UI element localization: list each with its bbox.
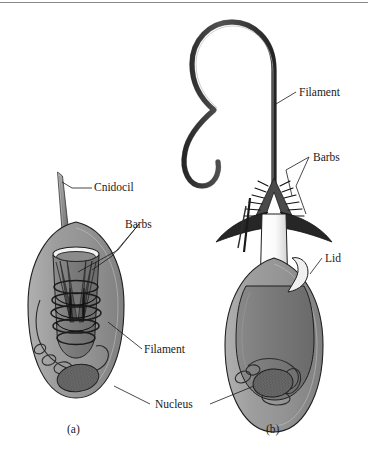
label-filament-right: Filament — [299, 86, 341, 98]
label-barbs-right: Barbs — [313, 151, 340, 163]
caption-b: (b) — [266, 423, 280, 436]
label-barbs-left: Barbs — [125, 218, 152, 230]
panel-a-undischarged — [28, 172, 124, 398]
label-cnidocil: Cnidocil — [94, 181, 134, 193]
label-lid: Lid — [325, 252, 341, 264]
page-top-rule — [0, 2, 368, 3]
leader-cnidocil — [62, 182, 92, 188]
label-filament-left: Filament — [144, 343, 186, 355]
panel-b-discharged — [184, 22, 332, 432]
leader-barbs-right-2 — [296, 157, 309, 214]
leader-lid — [310, 258, 322, 274]
capsule-mouth-a — [57, 252, 96, 262]
diagram-canvas: Cnidocil Barbs Filament Filament Barbs L… — [0, 0, 368, 450]
cnidocyte-figure: Cnidocil Barbs Filament Filament Barbs L… — [0, 0, 368, 450]
everted-filament-b — [184, 22, 274, 188]
label-nucleus: Nucleus — [155, 398, 193, 410]
leader-nucleus-left — [114, 386, 150, 404]
caption-a: (a) — [67, 423, 80, 436]
leader-filament-right — [276, 92, 296, 104]
